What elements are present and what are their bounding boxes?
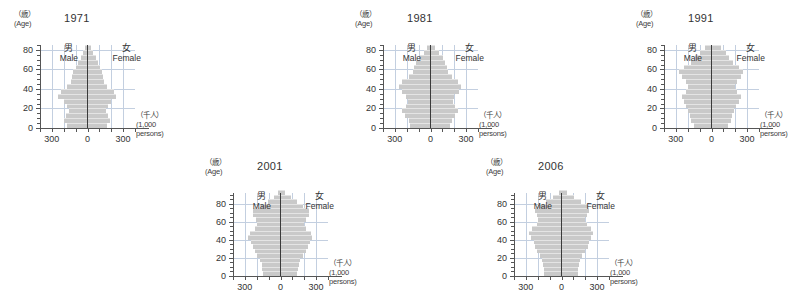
y-tick-minor	[511, 231, 514, 232]
bar-male-age-5	[544, 267, 562, 272]
x-tick	[562, 277, 563, 280]
bar-male-age-40	[531, 235, 561, 240]
x-tick	[526, 277, 527, 280]
y-tick-label: 60	[484, 217, 507, 227]
bar-male-age-65	[537, 213, 561, 218]
bar-female-age-30	[562, 244, 588, 249]
y-tick-label: 40	[484, 235, 507, 245]
bar-female-age-40	[562, 235, 592, 240]
y-tick-major	[510, 240, 514, 241]
x-tick	[609, 277, 610, 280]
y-tick-label: 0	[484, 271, 507, 281]
x-tick-label: 0	[559, 282, 564, 292]
age-caption-en: (Age)	[486, 167, 506, 176]
bar-female-age-45	[562, 231, 594, 236]
bar-male-age-35	[534, 240, 562, 245]
y-tick-minor	[511, 271, 514, 272]
bar-female-age-35	[562, 240, 590, 245]
y-tick-minor	[511, 253, 514, 254]
x-tick	[514, 277, 515, 280]
x-tick-label: 300	[518, 282, 533, 292]
bar-male-age-45	[529, 231, 561, 236]
bar-female-age-55	[562, 222, 587, 227]
x-axis-line	[514, 276, 623, 277]
y-tick-minor	[511, 195, 514, 196]
x-tick-label: 300	[590, 282, 605, 292]
y-tick-minor	[511, 262, 514, 263]
y-tick-label: 20	[484, 253, 507, 263]
y-tick-major	[510, 222, 514, 223]
bar-female-age-15	[562, 258, 581, 263]
y-axis-line	[514, 193, 515, 276]
bar-male-age-25	[537, 249, 561, 254]
y-tick-label: 80	[484, 199, 507, 209]
bar-male-age-15	[542, 258, 561, 263]
y-tick-minor	[511, 235, 514, 236]
y-tick-minor	[511, 267, 514, 268]
bar-male-age-55	[537, 222, 562, 227]
bar-female-age-25	[562, 249, 586, 254]
y-tick-minor	[511, 217, 514, 218]
age-axis-caption: （歳）(Age)	[486, 158, 506, 176]
bar-male-age-20	[540, 253, 561, 258]
chart-title-2006: 2006	[538, 160, 564, 172]
age-caption-jp: （歳）	[486, 158, 506, 167]
bar-female-age-65	[562, 213, 587, 218]
persons-axis-caption: （千人）(1,000persons)	[610, 259, 638, 286]
x-tick	[538, 277, 539, 280]
x-tick	[550, 277, 551, 280]
bar-female-age-50	[562, 226, 592, 231]
y-tick-minor	[511, 244, 514, 245]
y-tick-minor	[511, 213, 514, 214]
bar-female-age-5	[562, 267, 579, 272]
bar-male-age-60	[538, 217, 561, 222]
y-tick-minor	[511, 249, 514, 250]
bar-female-age-20	[562, 253, 583, 258]
persons-caption-line-2: persons)	[610, 277, 638, 286]
plot-area-2006: 0204060803000300男Male女Female	[514, 193, 609, 276]
pyramid-panel-2006: （歳）(Age)2006（千人）(1,000persons)0204060803…	[0, 0, 811, 302]
bar-female-age-60	[562, 217, 586, 222]
bar-male-age-50	[532, 226, 562, 231]
x-tick	[585, 277, 586, 280]
legend-male: 男Male	[520, 191, 566, 211]
y-tick-major	[510, 258, 514, 259]
legend-female: 女Female	[576, 191, 626, 211]
bar-female-age-10	[562, 262, 580, 267]
legend-male-en: Male	[520, 201, 566, 211]
y-tick-minor	[511, 226, 514, 227]
x-tick	[597, 277, 598, 280]
legend-female-en: Female	[576, 201, 626, 211]
x-tick	[573, 277, 574, 280]
persons-caption-line-0: （千人）	[610, 259, 638, 268]
y-tick-minor	[511, 208, 514, 209]
bar-male-age-10	[543, 262, 562, 267]
bar-male-age-30	[535, 244, 562, 249]
legend-male-jp: 男	[520, 191, 566, 201]
legend-female-jp: 女	[576, 191, 626, 201]
y-tick-minor	[511, 199, 514, 200]
y-tick-major	[510, 204, 514, 205]
